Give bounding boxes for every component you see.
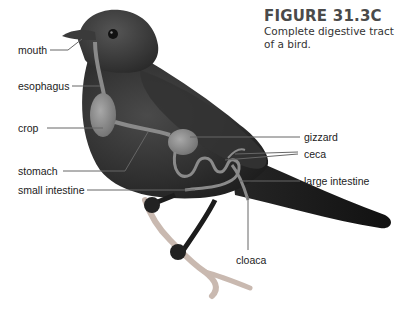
bird-eye (108, 29, 118, 39)
figure-title: FIGURE 31.3C (264, 8, 409, 25)
label-ceca: ceca (304, 148, 326, 160)
branch (145, 200, 250, 296)
figure-description: Complete digestive tract of a bird. (264, 25, 409, 51)
label-gizzard: gizzard (304, 131, 338, 143)
figure-caption: FIGURE 31.3C Complete digestive tract of… (264, 8, 409, 51)
label-cloaca: cloaca (236, 254, 266, 266)
label-stomach: stomach (18, 165, 58, 177)
figure-description-line2: of a bird. (264, 38, 311, 50)
bird-beak (62, 30, 96, 40)
label-crop: crop (18, 122, 38, 134)
label-large-intestine: large intestine (304, 175, 369, 187)
crop-organ (90, 93, 116, 137)
label-small-intestine: small intestine (18, 184, 85, 196)
digestive-tract-figure: FIGURE 31.3C Complete digestive tract of… (0, 0, 414, 309)
bird-legs (144, 195, 215, 260)
label-mouth: mouth (18, 44, 47, 56)
label-esophagus: esophagus (18, 80, 69, 92)
gizzard-organ (168, 129, 198, 155)
figure-description-line1: Complete digestive tract (264, 25, 394, 37)
bird-head (78, 10, 158, 73)
